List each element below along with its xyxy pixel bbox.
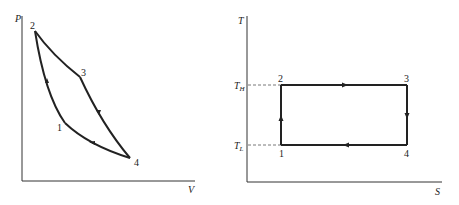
ts-th-label: TH	[234, 80, 246, 93]
pv-point-2-label: 2	[30, 20, 35, 31]
ts-arrow-1-2-icon	[279, 115, 284, 121]
pv-x-axis-label: V	[188, 184, 196, 195]
pv-process-3-4	[80, 77, 130, 158]
ts-point-4-label: 4	[404, 148, 409, 159]
pv-y-axis-label: P	[14, 13, 21, 24]
pv-point-4-label: 4	[134, 157, 139, 168]
pv-diagram: P V 2 3 1 4	[14, 13, 196, 195]
ts-arrow-2-3-icon	[342, 83, 348, 88]
ts-y-axis-label: T	[238, 15, 245, 26]
pv-process-4-1	[65, 123, 130, 158]
ts-tl-label: TL	[234, 140, 244, 153]
ts-arrow-4-1-icon	[343, 143, 349, 148]
ts-point-1-label: 1	[279, 148, 284, 159]
pv-process-1-2	[35, 31, 65, 123]
thermodynamic-cycle-figure: P V 2 3 1 4 T S TH TL	[0, 0, 459, 205]
ts-point-3-label: 3	[404, 73, 409, 84]
pv-point-3-label: 3	[81, 67, 86, 78]
pv-process-2-3	[35, 31, 80, 77]
ts-x-axis-label: S	[435, 186, 440, 197]
ts-arrow-3-4-icon	[405, 113, 410, 119]
pv-point-1-label: 1	[57, 122, 62, 133]
ts-point-2-label: 2	[278, 73, 283, 84]
ts-diagram: T S TH TL 2 3 1 4	[234, 15, 442, 197]
